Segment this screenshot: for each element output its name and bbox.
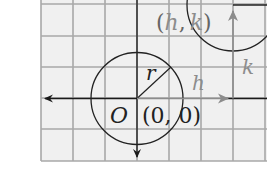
k-label: k xyxy=(242,55,254,79)
origin-coords: (0, 0) xyxy=(142,103,201,128)
radius-label: r xyxy=(146,61,157,85)
h-label: h xyxy=(192,71,205,95)
center-coords: (h,k) xyxy=(156,10,212,35)
origin-letter: O xyxy=(110,103,128,128)
diagram: r h k O (0, 0) (h,k) xyxy=(0,0,267,192)
